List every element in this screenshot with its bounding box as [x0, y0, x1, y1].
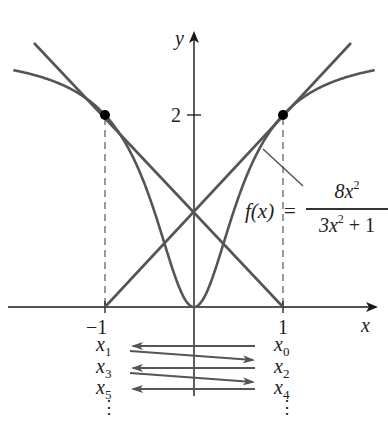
y-tick-label-2: 2 [171, 105, 181, 125]
fraction-numerator: 8x2 [302, 180, 388, 206]
ellipsis-right: ⋮ [278, 398, 296, 416]
iterate-label-x5: x5 [96, 377, 111, 397]
iterate-arrow-x3-x4 [130, 373, 253, 382]
function-fraction: 8x2 3x2 + 1 [302, 180, 388, 237]
ellipsis-left: ⋮ [100, 398, 118, 416]
y-axis-label: y [175, 28, 184, 48]
iterate-label-x1: x1 [96, 334, 111, 354]
iterate-arrow-x1-x2 [130, 351, 253, 360]
iterate-label-x0: x0 [274, 334, 289, 354]
fraction-bar [306, 208, 388, 210]
point-neg1-2 [100, 110, 110, 120]
function-label-lhs: f(x) [245, 201, 274, 222]
iterate-label-x2: x2 [274, 356, 289, 376]
x-axis-label: x [361, 315, 370, 335]
fraction-denominator: 3x2 + 1 [302, 214, 388, 237]
iterate-label-x4: x4 [274, 377, 289, 397]
function-label-equals: = [284, 201, 296, 222]
iterate-label-x3: x3 [96, 356, 111, 376]
point-1-2 [278, 110, 288, 120]
